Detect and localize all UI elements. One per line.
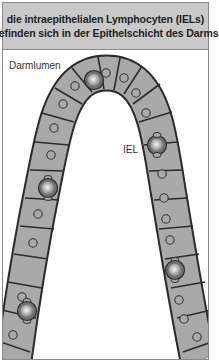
iel-label: IEL xyxy=(123,144,138,155)
iel-cell xyxy=(85,71,104,90)
lumen-label: Darmlumen xyxy=(9,60,61,71)
villus-diagram xyxy=(0,0,213,364)
